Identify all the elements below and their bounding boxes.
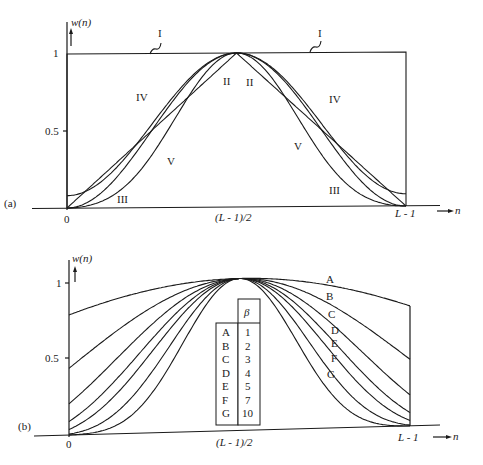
- label-III-right: III: [329, 184, 340, 196]
- panel-b: w(n) 1 0.5 (b) 0 (L - 1)/2 L - 1 n ABCDE…: [18, 252, 459, 450]
- table-beta-E: 5: [245, 380, 251, 392]
- label-I-left: I: [158, 27, 162, 39]
- y-tick-1-a: 1: [53, 47, 59, 59]
- curves-a: [67, 53, 406, 208]
- y-tick-05-b: 0.5: [45, 352, 59, 364]
- x-axis-label-a: n: [455, 204, 461, 216]
- label-II-right: II: [246, 76, 254, 88]
- x-tick-mid-a: (L - 1)/2: [215, 211, 252, 224]
- curve-label-G: G: [327, 368, 335, 380]
- curve-labels-b: ABCDEFG: [326, 273, 339, 380]
- table-curve-F: F: [222, 394, 228, 406]
- table-curve-G: G: [222, 407, 230, 419]
- table-beta-C: 3: [245, 353, 251, 365]
- table-beta-A: 1: [245, 326, 251, 338]
- label-V-right: V: [294, 140, 302, 152]
- x-arrow-icon: [446, 435, 452, 439]
- table-beta-G: 10: [242, 407, 254, 419]
- y-axis-label-a: w(n): [71, 16, 92, 29]
- curve-II-triangular: [67, 53, 406, 208]
- table-beta-B: 2: [245, 340, 251, 352]
- label-IV-right: IV: [329, 93, 341, 105]
- curve-I-rectangular: [67, 52, 406, 208]
- curve-V-blackman: [67, 53, 406, 208]
- table-beta-F: 7: [245, 394, 251, 406]
- curve-label-E: E: [331, 337, 338, 349]
- x-arrow-icon: [448, 209, 454, 213]
- table-curve-D: D: [222, 367, 230, 379]
- panel-label-a: (a): [4, 197, 17, 210]
- table-beta-D: 4: [245, 367, 251, 379]
- x-tick-0-b: 0: [66, 438, 72, 450]
- label-IV-left: IV: [136, 91, 148, 103]
- curve-label-F: F: [331, 352, 337, 364]
- y-tick-1-b: 1: [56, 277, 62, 289]
- y-arrow-icon: [69, 28, 73, 34]
- curve-label-D: D: [331, 324, 339, 336]
- table-curve-A: A: [222, 326, 230, 338]
- window-functions-figure: w(n) 0.5 1 (a) 0 (L - 1)/2 L - 1 n I I I…: [0, 0, 483, 465]
- x-tick-end-b: L - 1: [397, 431, 419, 443]
- table-header-beta: β: [243, 306, 250, 318]
- panel-a: w(n) 0.5 1 (a) 0 (L - 1)/2 L - 1 n I I I…: [4, 16, 461, 225]
- y-axis-label-b: w(n): [72, 252, 93, 265]
- label-II-left: II: [223, 75, 231, 87]
- panel-label-b: (b): [18, 420, 31, 433]
- label-III-left: III: [117, 193, 128, 205]
- x-tick-end-a: L - 1: [394, 207, 416, 219]
- curve-label-A: A: [326, 273, 334, 285]
- label-V-left: V: [167, 155, 175, 167]
- x-tick-0-a: 0: [64, 213, 70, 225]
- beta-table: β A1B2C3D4E5F7G10: [216, 299, 260, 425]
- y-arrow-icon: [73, 266, 77, 272]
- x-tick-mid-b: (L - 1)/2: [216, 436, 253, 449]
- table-curve-E: E: [222, 380, 229, 392]
- curve-label-C: C: [328, 308, 335, 320]
- table-curve-C: C: [222, 353, 229, 365]
- y-tick-05-a: 0.5: [45, 125, 59, 137]
- leader-I-right: [310, 41, 321, 52]
- curve-III-hanning: [67, 53, 406, 208]
- x-axis-a: [32, 206, 440, 209]
- table-curve-B: B: [222, 340, 229, 352]
- label-I-right: I: [318, 27, 322, 39]
- curve-label-B: B: [326, 290, 333, 302]
- x-axis-label-b: n: [453, 430, 459, 442]
- leader-I-left: [150, 43, 161, 54]
